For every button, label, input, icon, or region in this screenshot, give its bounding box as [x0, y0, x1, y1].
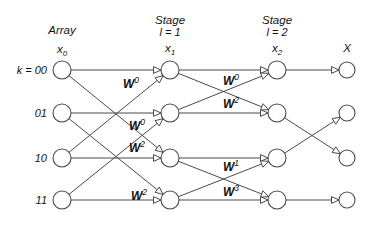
edge-stage1-3-1-arrowhead: [155, 119, 163, 126]
edge-stage1-3-3-arrowhead: [154, 197, 162, 204]
node-stage2-row2: [268, 149, 286, 167]
edge-stage2-2-2-arrowhead: [261, 155, 269, 162]
node-output-row1: [339, 105, 355, 121]
edges-layer: [69, 70, 340, 200]
column-subheading-stage2: l = 2: [266, 26, 287, 38]
twiddle-label-stage2-5: W2: [223, 95, 239, 111]
twiddle-label-stage1-1: W0: [129, 117, 145, 133]
node-input-row1: [53, 104, 71, 122]
column-heading-stage1: Stage: [155, 14, 185, 26]
twiddle-exponent-stage2-6: 1: [234, 158, 239, 168]
node-input-row0: [53, 61, 71, 79]
column-subheading-stage1: l = 1: [159, 26, 180, 38]
edge-stage1-0-2-arrowhead: [155, 145, 163, 152]
twiddle-label-stage1-3: W2: [131, 187, 147, 203]
twiddle-exponent-stage1-2: 2: [139, 139, 145, 149]
edge-stage1-2-2-arrowhead: [154, 155, 162, 162]
edge-stage2-2-3-arrowhead: [260, 191, 268, 197]
edge-output-0-0-arrowhead: [332, 67, 340, 74]
node-stage2-row0: [268, 61, 286, 79]
row-label-3: 11: [36, 194, 47, 206]
twiddle-exponent-stage2-5: 2: [233, 95, 239, 105]
column-variable-subscript-stage2: 2: [277, 48, 283, 57]
node-stage2-row3: [268, 191, 286, 209]
edge-stage2-0-0-arrowhead: [261, 67, 269, 74]
edge-stage1-1-3-arrowhead: [155, 187, 163, 194]
twiddle-label-stage2-7: W3: [223, 183, 239, 199]
edge-output-3-3-arrowhead: [332, 197, 340, 204]
twiddle-exponent-stage2-7: 3: [234, 183, 239, 193]
edge-stage1-0-0-arrowhead: [154, 67, 162, 74]
edge-stage2-1-1-arrowhead: [261, 110, 269, 117]
node-stage1-row2: [161, 149, 179, 167]
fft-flow-diagram: Arrayx0Stagel = 1x1Stagel = 2x2Xk = 0001…: [0, 0, 371, 225]
node-input-row3: [53, 191, 71, 209]
twiddle-exponent-stage1-1: 0: [140, 117, 145, 127]
column-variable-input: x0: [56, 43, 68, 58]
twiddle-label-stage2-6: W1: [223, 158, 239, 174]
node-output-row3: [339, 192, 355, 208]
twiddle-label-stage1-2: W2: [129, 139, 145, 155]
node-input-row2: [53, 149, 71, 167]
edge-stage2-1-0-arrowhead: [260, 73, 268, 79]
twiddle-label-stage1-0: W0: [123, 75, 139, 91]
edge-stage2-0-1-arrowhead: [260, 104, 268, 110]
edge-stage2-3-2-arrowhead: [260, 161, 268, 167]
column-heading-stage2: Stage: [262, 14, 292, 26]
edge-output-1-2-arrowhead: [332, 147, 340, 154]
twiddle-exponent-stage2-4: 0: [234, 72, 239, 82]
node-output-row0: [339, 62, 355, 78]
column-variable-subscript-stage1: 1: [171, 48, 175, 57]
node-stage1-row1: [161, 104, 179, 122]
column-heading-input: Array: [47, 24, 77, 36]
node-output-row2: [339, 150, 355, 166]
row-label-2: 10: [35, 152, 48, 164]
edge-stage2-3-3-arrowhead: [261, 197, 269, 204]
node-stage2-row1: [268, 104, 286, 122]
twiddle-exponent-stage1-3: 2: [141, 187, 147, 197]
column-variable-subscript-input: 0: [63, 49, 68, 58]
column-variable-output: X: [342, 42, 352, 54]
row-label-1: 01: [35, 107, 47, 119]
flow-graph-canvas: Arrayx0Stagel = 1x1Stagel = 2x2Xk = 0001…: [0, 0, 371, 225]
edge-stage1-1-1-arrowhead: [154, 110, 162, 117]
row-label-0: k = 00: [17, 64, 48, 76]
edge-stage1-2-0-arrowhead: [155, 76, 163, 83]
twiddle-exponent-stage1-0: 0: [134, 75, 139, 85]
edge-output-2-1-arrowhead: [332, 117, 340, 124]
column-variable-stage2: x2: [271, 42, 283, 57]
node-stage1-row0: [161, 61, 179, 79]
column-variable-stage1: x1: [164, 42, 175, 57]
node-stage1-row3: [161, 191, 179, 209]
